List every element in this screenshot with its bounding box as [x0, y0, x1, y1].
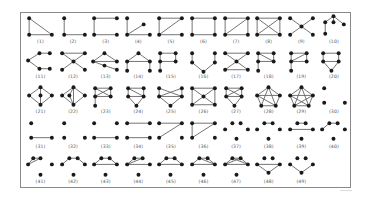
graph-vertex [165, 156, 169, 160]
graph-vertex [245, 51, 249, 55]
graph-vertex [39, 93, 43, 97]
graph-vertex [125, 60, 129, 64]
graph-vertex [115, 121, 119, 125]
graph-label: (49) [285, 179, 318, 184]
graph-vertex [39, 173, 43, 177]
graph-vertex [134, 104, 138, 108]
graph-edge [204, 88, 215, 96]
graph-drawing [221, 155, 252, 180]
graph-vertex [180, 33, 184, 37]
graph-cell: (37) [220, 119, 253, 154]
graph-vertex [142, 95, 146, 99]
graph-vertex [190, 61, 194, 65]
graph-vertex [82, 33, 86, 37]
graph-cell: (12) [57, 49, 90, 84]
graph-label: (4) [122, 39, 155, 44]
graph-vertex [263, 121, 267, 125]
graph-vertex [60, 68, 64, 72]
graph-vertex [239, 95, 243, 99]
graph-drawing [155, 120, 186, 145]
graph-vertex [213, 51, 217, 55]
graph-vertex [148, 69, 152, 73]
graph-vertex [82, 136, 86, 140]
graph-vertex [322, 51, 326, 55]
graph-label: (1) [24, 39, 57, 44]
graph-vertex [39, 103, 43, 107]
graph-vertex [263, 156, 267, 160]
graph-vertex [92, 33, 96, 37]
graph-cell: (11) [24, 49, 57, 84]
graph-vertex [103, 51, 107, 55]
graph-drawing [90, 85, 121, 110]
graph-vertex [213, 16, 217, 20]
graph-vertex [50, 136, 54, 140]
graph-vertex [223, 68, 227, 72]
graph-drawing [90, 15, 121, 40]
graph-vertex [174, 51, 178, 55]
graph-cell: (34) [122, 119, 155, 154]
graph-label: (47) [220, 179, 253, 184]
graph-drawing [123, 85, 154, 110]
graph-vertex [71, 173, 75, 177]
graph-vertex [115, 33, 119, 37]
graph-label: (27) [220, 109, 253, 114]
graph-vertex [148, 33, 152, 37]
graph-label: (46) [187, 179, 220, 184]
graph-vertex [173, 156, 177, 160]
graph-edge [29, 87, 40, 95]
graph-label: (34) [122, 144, 155, 149]
graph-vertex [272, 51, 276, 55]
graph-label: (22) [57, 109, 90, 114]
graph-label: (7) [220, 39, 253, 44]
graph-vertex [321, 127, 325, 131]
graph-vertex [180, 95, 184, 99]
graph-edge [269, 164, 280, 172]
graph-vertex [126, 86, 130, 90]
graph-cell: (31) [24, 119, 57, 154]
graph-vertex [82, 93, 86, 97]
graph-label: (31) [24, 144, 57, 149]
graph-cell: (25) [154, 84, 187, 119]
graph-edge [127, 24, 144, 34]
graph-edge [291, 53, 307, 61]
graph-label: (16) [187, 74, 220, 79]
graph-vertex [256, 69, 260, 73]
graph-vertex [255, 127, 259, 131]
graph-vertex [278, 16, 282, 20]
graph-vertex [245, 127, 249, 131]
graph-vertex [26, 162, 30, 166]
graph-vertex [323, 86, 327, 90]
graph-vertex [289, 51, 293, 55]
graph-label: (39) [285, 144, 318, 149]
graph-label: (35) [154, 144, 187, 149]
graph-vertex [190, 121, 194, 125]
graph-cell: (32) [57, 119, 90, 154]
graph-label: (43) [89, 179, 122, 184]
graph-vertex [245, 16, 249, 20]
graph-vertex [303, 121, 307, 125]
graph-cell: (8) [252, 14, 285, 49]
graph-drawing [318, 15, 349, 40]
graph-cell: (35) [154, 119, 187, 154]
graph-vertex [255, 162, 259, 166]
graph-vertex [158, 16, 162, 20]
graph-vertex [159, 60, 163, 64]
graph-cell: (39) [285, 119, 318, 154]
graph-vertex [255, 93, 259, 97]
graph-vertex [71, 85, 75, 89]
graph-vertex [115, 60, 119, 64]
graph-vertex [148, 162, 152, 166]
graph-vertex [180, 162, 184, 166]
graph-vertex [239, 86, 243, 90]
graph-edge [29, 95, 40, 104]
graph-drawing [123, 15, 154, 40]
graph-vertex [224, 86, 228, 90]
graph-cell: (2) [57, 14, 90, 49]
graph-vertex [158, 86, 162, 90]
graph-label: (44) [122, 179, 155, 184]
graph-cell: (14) [122, 49, 155, 84]
graph-label: (21) [24, 109, 57, 114]
graph-cell: (24) [122, 84, 155, 119]
graph-vertex [307, 104, 311, 108]
graph-vertex [213, 61, 217, 65]
